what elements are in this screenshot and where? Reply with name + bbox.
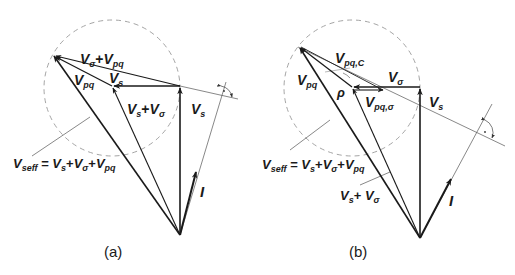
right-angle-arc-b: [485, 120, 493, 138]
diagram-b: Vpq,C Vpq ρ Vσ Vpq,σ Vs Vseff = Vs+Vσ+Vp…: [262, 20, 505, 260]
label-vpq-c-b: Vpq,C: [335, 50, 365, 68]
current-axis-line-a: [180, 82, 226, 235]
rho-angle-arc-b: [343, 73, 350, 78]
label-vseff-equation-a: Vseff = Vs+Vσ+Vpq: [13, 156, 116, 173]
label-vseff-equation-b: Vseff = Vs+Vσ+Vpq: [262, 157, 365, 174]
vseff-leader-a: [32, 117, 90, 156]
label-current-a: I: [200, 183, 205, 200]
dashed-circle-a: [44, 20, 180, 156]
label-vs-plus-vsigma-b: Vs+ Vσ: [340, 188, 381, 205]
label-vs-a: Vs: [191, 101, 205, 119]
perpendicular-line-a: [180, 86, 238, 99]
label-vpq-sigma-b: Vpq,σ: [365, 94, 395, 112]
current-phasor-a: [180, 172, 196, 235]
diagram-a: Vσ+Vpq Vpq Vs Vs+Vσ Vs Vseff = Vs+Vσ+Vpq…: [13, 20, 238, 260]
caption-b: (b): [349, 243, 367, 260]
label-vs-small-a: Vs: [109, 70, 123, 88]
caption-a: (a): [104, 243, 122, 260]
vseff-leader-b: [290, 120, 330, 150]
label-vs-b: Vs: [429, 94, 443, 112]
label-rho-b: ρ: [336, 85, 345, 100]
right-angle-dot-b: [484, 131, 486, 133]
dashed-circle-b: [284, 20, 420, 156]
current-phasor-b: [420, 179, 451, 238]
label-current-b: I: [449, 192, 454, 209]
label-vsigma-plus-vpq-a: Vσ+Vpq: [80, 51, 124, 69]
phasor-diagrams: Vσ+Vpq Vpq Vs Vs+Vσ Vs Vseff = Vs+Vσ+Vpq…: [0, 0, 515, 275]
label-vs-plus-vsigma-a: Vs+Vσ: [127, 101, 166, 119]
right-angle-dot-a: [223, 90, 225, 92]
label-vsigma-b: Vσ: [388, 69, 404, 87]
label-vpq-b: Vpq: [297, 72, 318, 90]
label-vpq-a: Vpq: [74, 72, 95, 90]
